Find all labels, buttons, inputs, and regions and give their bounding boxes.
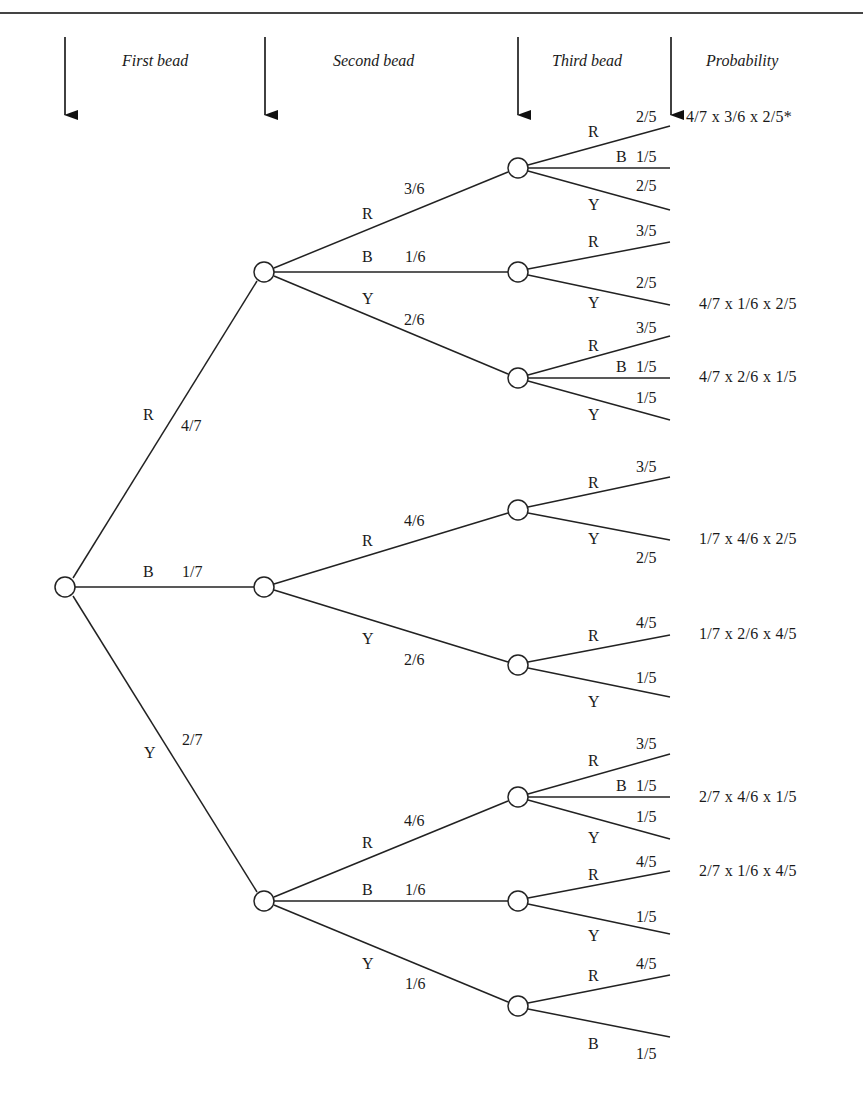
branch-prob-label: 3/5 xyxy=(636,319,656,337)
branch-prob-label: 1/5 xyxy=(636,669,656,687)
branch-color-label: R xyxy=(588,123,599,141)
branch-prob-label: 3/5 xyxy=(636,458,656,476)
probability-product: 4/7 x 3/6 x 2/5* xyxy=(686,108,792,126)
probability-product: 1/7 x 2/6 x 4/5 xyxy=(699,625,797,643)
branch-prob-label: 1/5 xyxy=(636,1045,656,1063)
branch-prob-label: 1/5 xyxy=(636,777,656,795)
branch-prob-label: 3/5 xyxy=(636,735,656,753)
probability-product: 1/7 x 4/6 x 2/5 xyxy=(699,530,797,548)
branch-color-label: B xyxy=(616,777,627,795)
header-first-bead: First bead xyxy=(122,52,188,70)
branch-color-label: Y xyxy=(144,744,156,762)
branch-prob-label: 3/6 xyxy=(404,180,424,198)
branch-color-label: R xyxy=(362,532,373,550)
node-B xyxy=(254,577,274,597)
branch-color-label: B xyxy=(362,248,373,266)
tree-diagram xyxy=(0,0,863,1098)
branch-color-label: R xyxy=(588,474,599,492)
branch-prob-label: 1/5 xyxy=(636,148,656,166)
branch-prob-label: 1/5 xyxy=(636,808,656,826)
branch-prob-label: 2/7 xyxy=(182,731,202,749)
node-YR xyxy=(508,787,528,807)
branch-prob-label: 2/5 xyxy=(636,108,656,126)
branch-color-label: R xyxy=(588,752,599,770)
branch-prob-label: 1/5 xyxy=(636,908,656,926)
node-R xyxy=(254,262,274,282)
probability-product: 4/7 x 1/6 x 2/5 xyxy=(699,295,797,313)
branch-color-label: R xyxy=(143,406,154,424)
branch-prob-label: 1/6 xyxy=(405,881,425,899)
branch-prob-label: 4/7 xyxy=(181,417,201,435)
branch-color-label: B xyxy=(362,881,373,899)
probability-product: 2/7 x 4/6 x 1/5 xyxy=(699,788,797,806)
branch-color-label: B xyxy=(616,358,627,376)
branch-prob-label: 1/6 xyxy=(405,248,425,266)
branch-color-label: Y xyxy=(588,829,600,847)
branch-prob-label: 2/5 xyxy=(636,549,656,567)
branch-prob-label: 4/5 xyxy=(636,614,656,632)
node-RY xyxy=(508,368,528,388)
branch-color-label: B xyxy=(588,1035,599,1053)
branch-prob-label: 1/5 xyxy=(636,358,656,376)
probability-product: 4/7 x 2/6 x 1/5 xyxy=(699,368,797,386)
branch-color-label: Y xyxy=(362,630,374,648)
probability-product: 2/7 x 1/6 x 4/5 xyxy=(699,862,797,880)
branch-color-label: Y xyxy=(588,294,600,312)
branch-color-label: R xyxy=(588,233,599,251)
header-probability: Probability xyxy=(706,52,778,70)
branch-prob-label: 4/5 xyxy=(636,955,656,973)
branch-prob-label: 4/5 xyxy=(636,853,656,871)
branch-color-label: B xyxy=(143,563,154,581)
branch-color-label: R xyxy=(588,337,599,355)
branch-color-label: Y xyxy=(588,196,600,214)
node-BR xyxy=(508,500,528,520)
header-third-bead: Third bead xyxy=(552,52,622,70)
branch-color-label: Y xyxy=(588,406,600,424)
branch-prob-label: 2/5 xyxy=(636,274,656,292)
branch-color-label: R xyxy=(588,866,599,884)
branch-prob-label: 4/6 xyxy=(404,812,424,830)
node-YY xyxy=(508,996,528,1016)
header-second-bead: Second bead xyxy=(333,52,414,70)
branch-prob-label: 2/6 xyxy=(404,651,424,669)
branch-prob-label: 2/6 xyxy=(404,311,424,329)
branch-prob-label: 2/5 xyxy=(636,177,656,195)
node-YB xyxy=(508,891,528,911)
branch-color-label: Y xyxy=(588,927,600,945)
node-RR xyxy=(508,158,528,178)
branch-prob-label: 4/6 xyxy=(404,512,424,530)
branch-color-label: R xyxy=(588,967,599,985)
branch-color-label: B xyxy=(616,148,627,166)
node-RB xyxy=(508,262,528,282)
branch-color-label: Y xyxy=(362,955,374,973)
branch-color-label: Y xyxy=(588,693,600,711)
branch-color-label: R xyxy=(362,834,373,852)
branch-color-label: R xyxy=(588,627,599,645)
branch-color-label: Y xyxy=(362,290,374,308)
branch-color-label: Y xyxy=(588,530,600,548)
node-Y xyxy=(254,891,274,911)
branch-color-label: R xyxy=(362,205,373,223)
branch-prob-label: 1/6 xyxy=(405,975,425,993)
branch-prob-label: 1/7 xyxy=(182,563,202,581)
branch-prob-label: 3/5 xyxy=(636,222,656,240)
branch-prob-label: 1/5 xyxy=(636,389,656,407)
root-node xyxy=(55,577,75,597)
node-BY xyxy=(508,655,528,675)
